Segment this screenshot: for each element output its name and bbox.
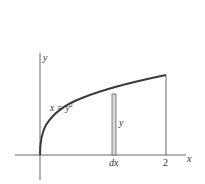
x-axis-label: x <box>186 153 192 164</box>
integration-strip <box>112 94 116 155</box>
curve-label: x = y2 <box>49 101 73 113</box>
strip-width-label: dx <box>109 157 119 168</box>
curve-label-main: x = y <box>49 103 70 113</box>
curve-x-equals-y-squared <box>40 75 166 155</box>
x-tick-2: 2 <box>163 157 168 168</box>
strip-height-label: y <box>118 117 124 128</box>
y-axis-label: y <box>42 52 48 63</box>
area-diagram: y x x = y2 y dx 2 <box>0 0 205 184</box>
curve-label-exponent: 2 <box>70 101 73 108</box>
